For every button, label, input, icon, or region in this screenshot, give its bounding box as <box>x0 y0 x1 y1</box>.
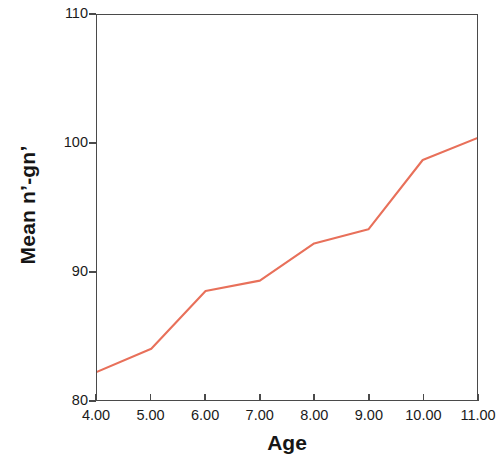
x-tick-mark <box>150 394 152 401</box>
x-tick-label: 10.00 <box>393 408 453 423</box>
x-tick-label: 9.00 <box>339 408 399 423</box>
x-tick-label: 6.00 <box>175 408 235 423</box>
line-chart-figure: Mean n’-gn’ 8090100110 Age 4.005.006.007… <box>0 0 496 458</box>
x-tick-mark <box>423 394 425 401</box>
x-tick-label: 8.00 <box>284 408 344 423</box>
y-tick-mark <box>89 142 96 144</box>
x-tick-label: 5.00 <box>121 408 181 423</box>
x-tick-mark <box>259 394 261 401</box>
x-tick-mark <box>204 394 206 401</box>
y-tick-label: 100 <box>48 135 88 150</box>
y-tick-label: 80 <box>48 393 88 408</box>
plot-area <box>96 14 478 401</box>
x-tick-mark <box>313 394 315 401</box>
x-tick-mark <box>95 394 97 401</box>
y-tick-mark <box>89 13 96 15</box>
plot-svg <box>97 15 477 400</box>
x-tick-mark <box>477 394 479 401</box>
y-tick-label: 110 <box>48 6 88 21</box>
x-tick-label: 11.00 <box>448 408 496 423</box>
x-axis-title: Age <box>96 432 478 456</box>
x-tick-label: 4.00 <box>66 408 126 423</box>
x-tick-mark <box>368 394 370 401</box>
y-axis-title-text: Mean n’-gn’ <box>16 146 40 265</box>
x-tick-label: 7.00 <box>230 408 290 423</box>
y-tick-label: 90 <box>48 264 88 279</box>
y-tick-mark <box>89 271 96 273</box>
x-axis-title-text: Age <box>267 432 307 454</box>
data-series-line <box>97 138 477 372</box>
y-axis-tick-labels: 8090100110 <box>48 0 88 458</box>
